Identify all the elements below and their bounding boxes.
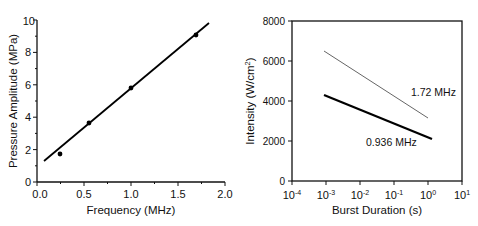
right-y-axis-label: Intensity (W/cm2): [243, 57, 256, 144]
data-points: [58, 33, 199, 157]
fit-line: [44, 23, 209, 161]
left-xtick-1.5: 1.5: [170, 188, 185, 200]
right-xtick: 10-3: [317, 189, 336, 201]
right-ytick-4000: 4000: [263, 96, 286, 107]
right-ytick-8000: 8000: [263, 16, 286, 27]
left-xtick-0.5: 0.5: [76, 188, 91, 200]
right-xtick: 10-4: [283, 189, 302, 201]
data-point: [194, 33, 199, 38]
left-xtick-2.0: 2.0: [217, 188, 232, 200]
left-ytick-6: 6: [25, 79, 31, 91]
left-chart: 0 2 4 6 8 10 0.0 0.5 1.0 1.5 2.0 Frequen…: [7, 15, 233, 216]
left-xtick-0: 0.0: [32, 188, 47, 200]
data-point: [129, 86, 134, 91]
right-xtick: 10-2: [351, 189, 370, 201]
series-label-1-72mhz: 1.72 MHz: [411, 86, 456, 98]
left-y-axis-label: Pressure Amplitude (MPa): [7, 34, 19, 168]
left-ytick-10: 10: [23, 15, 35, 27]
right-xtick-labels: 10-4 10-3 10-2 10-1 100 101: [283, 189, 470, 201]
series-label-0-936mhz: 0.936 MHz: [366, 136, 417, 148]
right-plot-frame: [292, 21, 462, 181]
right-ytick-2000: 2000: [263, 136, 286, 147]
data-point: [58, 152, 63, 157]
data-point: [87, 121, 92, 126]
right-xtick: 10-1: [385, 189, 404, 201]
series-line-1-72mhz: [324, 51, 428, 118]
right-xtick: 100: [420, 189, 436, 201]
right-ytick-6000: 6000: [263, 56, 286, 67]
series-line-0-936mhz: [324, 95, 432, 139]
left-ytick-4: 4: [25, 111, 31, 123]
left-ytick-0: 0: [25, 176, 31, 188]
right-xtick: 101: [454, 189, 470, 201]
left-ytick-8: 8: [25, 46, 31, 58]
left-x-axis-label: Frequency (MHz): [87, 204, 176, 216]
right-ytick-0: 0: [279, 176, 285, 187]
right-x-axis-label: Burst Duration (s): [332, 204, 422, 216]
left-ytick-2: 2: [25, 144, 31, 156]
figure: 0 2 4 6 8 10 0.0 0.5 1.0 1.5 2.0 Frequen…: [0, 0, 478, 226]
right-chart: 0 2000 4000 6000 8000 10-4 10-3 10-2 10-…: [243, 16, 470, 216]
left-xtick-1.0: 1.0: [123, 188, 138, 200]
